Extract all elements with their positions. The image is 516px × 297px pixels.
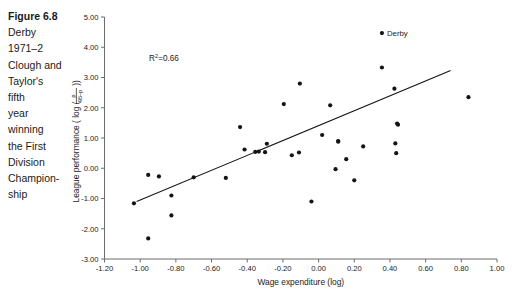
data-point	[320, 133, 324, 137]
data-point	[380, 65, 384, 69]
data-point	[336, 140, 340, 144]
point-label-derby: Derby	[387, 29, 408, 38]
x-tick-label: 0.40	[383, 264, 398, 273]
x-tick-label: -0.80	[167, 264, 184, 273]
r-squared-text: R2=0.66	[149, 53, 179, 63]
point-labels: Derby	[387, 29, 408, 38]
data-point	[297, 150, 301, 154]
y-tick-label: 2.00	[84, 104, 99, 113]
x-tick-label: 0.20	[347, 264, 362, 273]
data-point	[394, 151, 398, 155]
data-points	[132, 31, 471, 241]
data-point	[238, 125, 242, 129]
y-axis-title-suffix: ))	[71, 80, 81, 86]
y-tick-label: 5.00	[84, 13, 99, 22]
y-tick-label: 1.00	[84, 134, 99, 143]
data-point	[352, 178, 356, 182]
x-tick-label: -0.40	[239, 264, 256, 273]
data-point	[466, 95, 470, 99]
x-tick-label: 0.00	[311, 264, 326, 273]
data-point	[263, 150, 267, 154]
data-point	[333, 167, 337, 171]
y-axis-title-prefix: League performance ( log (	[71, 101, 81, 202]
y-tick-label: -3.00	[81, 255, 98, 264]
y-axis-title: League performance ( log (p95–p))	[70, 80, 83, 203]
y-tick-label: 0.00	[84, 164, 99, 173]
data-point	[380, 31, 384, 35]
data-point	[224, 176, 228, 180]
data-point	[344, 157, 348, 161]
x-tick-label: -0.20	[274, 264, 291, 273]
data-point	[253, 150, 257, 154]
x-tick-label: -0.60	[203, 264, 220, 273]
figure-container: Figure 6.8 Derby 1971–2 Clough and Taylo…	[0, 0, 516, 297]
x-tick-label: 1.00	[490, 264, 505, 273]
y-axis-title-numerator: p	[70, 95, 76, 98]
regression-trendline	[137, 71, 451, 202]
data-point	[257, 150, 261, 154]
data-point	[393, 141, 397, 145]
data-point	[169, 193, 173, 197]
y-tick-label: 4.00	[84, 43, 99, 52]
data-point	[265, 142, 269, 146]
data-point	[169, 213, 173, 217]
data-point	[146, 236, 150, 240]
y-axis-ticks: 5.004.003.002.001.000.00-1.00-2.00-3.00	[81, 13, 104, 264]
data-point	[361, 144, 365, 148]
data-point	[328, 103, 332, 107]
data-point	[157, 174, 161, 178]
x-axis-ticks: -1.20-1.00-0.80-0.60-0.40-0.200.000.200.…	[96, 259, 505, 273]
data-point	[298, 81, 302, 85]
data-point	[146, 173, 150, 177]
y-tick-label: -1.00	[81, 194, 98, 203]
y-tick-label: -2.00	[81, 225, 98, 234]
x-tick-label: 0.80	[454, 264, 469, 273]
x-tick-label: -1.00	[132, 264, 149, 273]
x-tick-label: 0.60	[418, 264, 433, 273]
x-tick-label: -1.20	[96, 264, 113, 273]
data-point	[290, 153, 294, 157]
data-point	[309, 199, 313, 203]
x-axis-title: Wage expenditure (log)	[257, 277, 344, 287]
data-point	[132, 201, 136, 205]
data-point	[282, 102, 286, 106]
data-point	[392, 87, 396, 91]
scatter-plot: 5.004.003.002.001.000.00-1.00-2.00-3.00 …	[0, 0, 516, 297]
data-point	[242, 147, 246, 151]
y-axis-title-denominator: 95–p	[77, 90, 83, 102]
data-point	[192, 175, 196, 179]
y-axis-title-group: League performance ( log (p95–p))	[70, 80, 83, 203]
y-tick-label: 3.00	[84, 73, 99, 82]
data-point	[396, 123, 400, 127]
r-squared-annotation: R2=0.66	[149, 53, 179, 63]
